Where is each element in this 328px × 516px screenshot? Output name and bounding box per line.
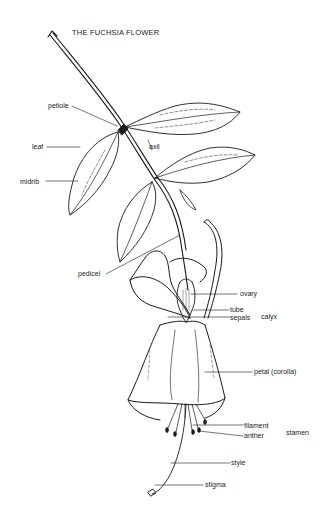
label-leaf: leaf — [32, 143, 43, 151]
label-midrib: midrib — [20, 178, 39, 186]
stem — [48, 31, 186, 250]
label-stamen: stamen — [286, 429, 309, 437]
label-sepals: sepals — [230, 314, 250, 322]
style — [152, 404, 186, 494]
label-style: style — [231, 459, 245, 467]
leaf-middle-right — [155, 147, 255, 183]
label-petiole: petiole — [48, 102, 69, 110]
label-petal: petal (corolla) — [254, 368, 296, 376]
label-filament: filament — [244, 422, 269, 430]
label-axil: axil — [149, 143, 160, 151]
label-tube: tube — [230, 306, 244, 314]
anthers — [166, 419, 207, 436]
label-anther: anther — [244, 432, 264, 440]
label-ovary: ovary — [240, 290, 257, 298]
fuchsia-diagram: THE FUCHSIA FLOWER — [0, 0, 328, 516]
leaf-left — [69, 132, 119, 215]
petiole-node — [118, 124, 128, 135]
sepal-upper — [204, 220, 222, 318]
fuchsia-illustration — [0, 0, 328, 516]
label-pedicel: pedicel — [78, 270, 100, 278]
sepal-back — [170, 258, 206, 282]
sepal-left — [130, 251, 190, 318]
leaf-lower-left — [117, 182, 156, 262]
pedicel-stem — [182, 250, 188, 290]
label-stigma: stigma — [205, 481, 226, 489]
label-calyx: calyx — [261, 313, 277, 321]
corolla — [128, 321, 225, 420]
leader-lines — [46, 106, 252, 485]
leaf-upper-right — [125, 103, 240, 134]
leaf-bud — [180, 190, 196, 210]
